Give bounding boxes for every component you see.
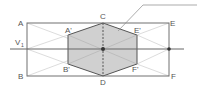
label-b-prime: B' bbox=[63, 65, 70, 74]
label-e: E bbox=[170, 19, 175, 28]
label-e-prime: E' bbox=[134, 26, 141, 35]
projection-diagram: A B C D E F A' B' E' F' V 1 bbox=[0, 0, 197, 97]
label-c: C bbox=[100, 12, 106, 21]
label-f: F bbox=[171, 72, 176, 81]
label-v-subscript: 1 bbox=[21, 42, 24, 48]
right-point bbox=[167, 47, 171, 51]
label-d: D bbox=[100, 78, 106, 87]
center-point bbox=[101, 47, 105, 51]
label-f-prime: F' bbox=[132, 65, 139, 74]
label-a: A bbox=[18, 19, 24, 28]
label-b: B bbox=[18, 72, 23, 81]
label-a-prime: A' bbox=[65, 26, 72, 35]
